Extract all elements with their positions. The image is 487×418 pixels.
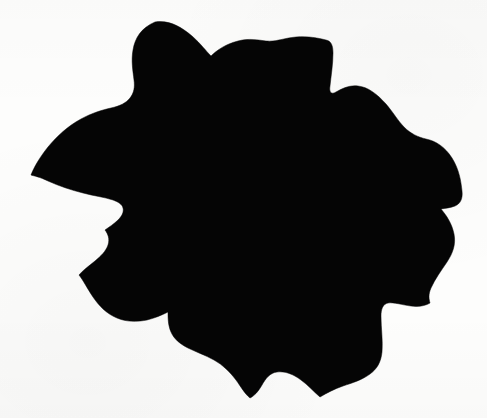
image-canvas: [0, 0, 487, 418]
leaf-silhouette-graphic: [0, 0, 487, 418]
